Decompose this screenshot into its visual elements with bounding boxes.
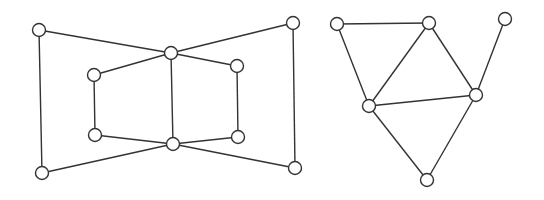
right-graph-edge-R2-R5 xyxy=(429,23,476,95)
left-graph-edge-L3-L5 xyxy=(171,53,237,66)
left-graph-edge-L5-L7 xyxy=(237,66,238,137)
left-graph-node-L8 xyxy=(167,138,180,151)
left-graph-edge-L3-L8 xyxy=(171,53,173,144)
left-graph-edge-L10-L8 xyxy=(173,144,295,168)
left-graph-node-L10 xyxy=(289,162,302,175)
right-graph-edge-R4-R5 xyxy=(369,95,476,106)
left-graph-node-L7 xyxy=(232,131,245,144)
left-graph-edge-L2-L3 xyxy=(171,23,293,53)
left-graph-edge-L1-L9 xyxy=(39,30,42,173)
right-graph-node-R2 xyxy=(423,17,436,30)
right-graph-edge-R3-R5 xyxy=(476,19,505,95)
right-graph-node-R4 xyxy=(363,100,376,113)
left-graph-edge-L2-L10 xyxy=(293,23,295,168)
left-graph-node-L1 xyxy=(33,24,46,37)
left-graph-node-L9 xyxy=(36,167,49,180)
right-graph-node-R5 xyxy=(470,89,483,102)
right-graph-node-R6 xyxy=(421,174,434,187)
edges-layer xyxy=(39,19,505,180)
left-graph-node-L5 xyxy=(231,60,244,73)
left-graph-edge-L4-L6 xyxy=(94,75,95,135)
right-graph-node-R1 xyxy=(331,18,344,31)
left-graph-node-L3 xyxy=(165,47,178,60)
right-graph-node-R3 xyxy=(499,13,512,26)
right-graph-edge-R5-R6 xyxy=(427,95,476,180)
left-graph-node-L4 xyxy=(88,69,101,82)
right-graph-edge-R1-R2 xyxy=(337,23,429,24)
right-graph-edge-R1-R4 xyxy=(337,24,369,106)
left-graph-edge-L1-L3 xyxy=(39,30,171,53)
right-graph-edge-R2-R4 xyxy=(369,23,429,106)
graph-diagram xyxy=(0,0,544,200)
left-graph-edge-L7-L8 xyxy=(173,137,238,144)
left-graph-edge-L9-L8 xyxy=(42,144,173,173)
left-graph-node-L2 xyxy=(287,17,300,30)
left-graph-node-L6 xyxy=(89,129,102,142)
left-graph-edge-L6-L8 xyxy=(95,135,173,144)
right-graph-edge-R4-R6 xyxy=(369,106,427,180)
left-graph-edge-L3-L4 xyxy=(94,53,171,75)
